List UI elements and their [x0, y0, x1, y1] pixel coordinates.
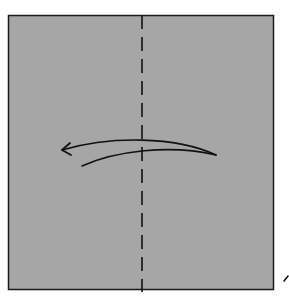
- origami-diagram: [0, 0, 289, 302]
- paper-square: [9, 16, 274, 290]
- corner-tick-mark-icon: [284, 276, 288, 281]
